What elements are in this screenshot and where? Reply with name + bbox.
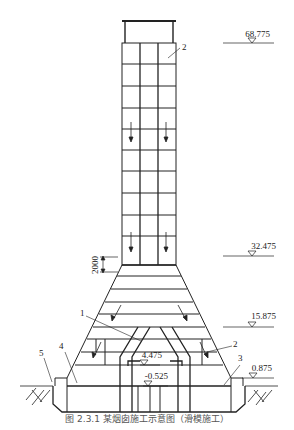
chimney-diagram: 68.775 32.475 15.875 4.475 0.875 -0.525 … (0, 0, 294, 430)
callout-4: 4 (59, 341, 64, 351)
callout-2-upper: 2 (182, 42, 187, 52)
elevation-markers (140, 38, 274, 386)
dimension-2000-label: 2000 (90, 256, 100, 275)
elevation-ground-label: 0.875 (252, 363, 273, 373)
figure-caption: 图 2.3.1 某烟囱施工示意图（滑模施工） (0, 412, 294, 425)
flow-arrows-upper (129, 122, 168, 252)
elevation-mid-label: 15.875 (251, 311, 276, 321)
elevation-top-label: 68.775 (245, 29, 270, 39)
elevation-inner-bottom-label: -0.525 (145, 371, 169, 381)
dimension-2000 (100, 256, 118, 273)
callout-3: 3 (238, 353, 243, 363)
callout-1: 1 (80, 308, 85, 318)
ground-left (20, 386, 53, 405)
elevation-transition-label: 32.475 (251, 241, 276, 251)
upper-shaft (122, 43, 176, 265)
inner-flue (120, 327, 190, 412)
leader-lines (44, 48, 240, 385)
elevation-inner-top-label: 4.475 (142, 350, 163, 360)
ground-right (245, 386, 278, 405)
foundation (53, 378, 245, 412)
flared-base (67, 265, 231, 378)
callout-5: 5 (39, 348, 44, 358)
callout-2-lower: 2 (233, 339, 238, 349)
